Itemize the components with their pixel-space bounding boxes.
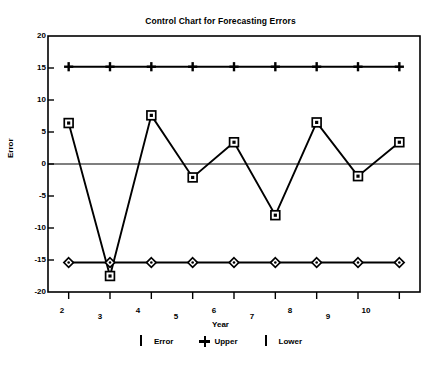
control-chart: Control Chart for Forecasting Errors Err… — [0, 0, 441, 365]
legend-label-upper: Upper — [214, 337, 237, 346]
square-marker-icon — [139, 336, 150, 347]
axis-ticks — [48, 68, 399, 299]
diamond-marker-icon — [264, 336, 275, 347]
series-error — [64, 111, 403, 280]
plus-marker-icon — [199, 336, 210, 347]
legend-entry-upper: Upper — [199, 336, 237, 347]
chart-legend: Error Upper Lower — [0, 336, 441, 347]
legend-label-error: Error — [154, 337, 174, 346]
plot-area — [0, 0, 441, 365]
series-upper — [64, 62, 404, 71]
legend-entry-error: Error — [139, 336, 174, 347]
legend-label-lower: Lower — [279, 337, 303, 346]
data-series-layer — [64, 62, 404, 280]
legend-entry-lower: Lower — [264, 336, 303, 347]
